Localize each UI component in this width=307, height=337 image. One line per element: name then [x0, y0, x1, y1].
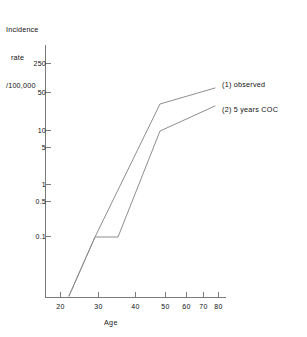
- chart-figure: Incidence rate /100,000 250 50: [0, 0, 307, 337]
- y-tick-label-50: 50: [14, 89, 46, 96]
- series-line-5-years-coc: [69, 106, 215, 296]
- y-axis-ticks: [46, 64, 52, 237]
- plot-area: [0, 0, 307, 337]
- x-tick-label-80: 80: [206, 303, 231, 310]
- y-tick-label-250: 250: [14, 60, 46, 67]
- y-tick-label-0-5: 0.5: [14, 198, 46, 205]
- legend-label-observed: (1) observed: [222, 80, 265, 89]
- y-tick-label-0-1: 0.1: [14, 233, 46, 240]
- y-tick-label-1: 1: [14, 181, 46, 188]
- x-tick-label-20: 20: [48, 303, 73, 310]
- legend-label-5-years-coc: (2) 5 years COC: [222, 105, 278, 114]
- x-axis-title: Age: [104, 318, 118, 327]
- y-tick-label-5: 5: [14, 144, 46, 151]
- x-tick-label-30: 30: [86, 303, 111, 310]
- y-tick-label-10: 10: [14, 127, 46, 134]
- x-tick-label-40: 40: [123, 303, 148, 310]
- series-line-observed: [69, 88, 215, 296]
